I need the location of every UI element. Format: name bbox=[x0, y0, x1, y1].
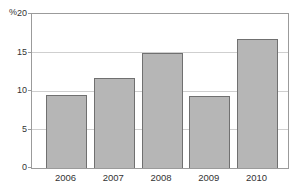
y-tick-label-10: 10 bbox=[0, 85, 27, 95]
y-tick-mark-20 bbox=[28, 13, 31, 14]
y-tick-label-0: 0 bbox=[0, 162, 27, 172]
y-tick-mark-15 bbox=[28, 52, 31, 53]
y-tick-label-20: 20 bbox=[0, 8, 27, 18]
x-tick-label-2008: 2008 bbox=[137, 172, 185, 184]
y-tick-label-5: 5 bbox=[0, 124, 27, 134]
y-tick-mark-0 bbox=[28, 167, 31, 168]
bar-2007 bbox=[94, 78, 135, 168]
bar-chart: % 0510152020062007200820092010 bbox=[0, 0, 294, 189]
bar-2010 bbox=[237, 39, 278, 168]
bar-2009 bbox=[189, 96, 230, 168]
y-tick-mark-10 bbox=[28, 90, 31, 91]
bar-2006 bbox=[46, 95, 87, 168]
x-tick-label-2010: 2010 bbox=[233, 172, 281, 184]
bar-2008 bbox=[142, 53, 183, 168]
x-tick-label-2009: 2009 bbox=[185, 172, 233, 184]
x-tick-label-2007: 2007 bbox=[89, 172, 137, 184]
y-tick-mark-5 bbox=[28, 129, 31, 130]
x-tick-label-2006: 2006 bbox=[42, 172, 90, 184]
plot-area bbox=[31, 13, 289, 169]
y-tick-label-15: 15 bbox=[0, 47, 27, 57]
